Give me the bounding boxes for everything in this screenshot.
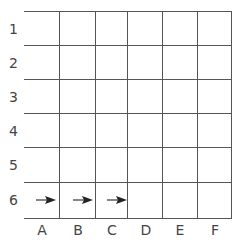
grid-line-h bbox=[24, 182, 232, 183]
row-label: 4 bbox=[9, 123, 23, 139]
grid-line-h bbox=[24, 218, 232, 219]
grid-line-v bbox=[162, 11, 163, 219]
column-label: E bbox=[170, 222, 190, 238]
column-label: B bbox=[68, 222, 88, 238]
grid-line-v bbox=[127, 11, 128, 219]
row-label: 3 bbox=[9, 89, 23, 105]
right-arrow-icon bbox=[72, 195, 94, 205]
grid-line-h bbox=[24, 147, 232, 148]
grid-line-v bbox=[59, 11, 60, 219]
grid-line-h bbox=[24, 11, 232, 12]
column-label: D bbox=[136, 222, 156, 238]
right-arrow-icon bbox=[35, 195, 57, 205]
right-arrow-icon bbox=[106, 195, 128, 205]
grid-line-h bbox=[24, 45, 232, 46]
row-label: 6 bbox=[9, 192, 23, 208]
grid-line-v bbox=[197, 11, 198, 219]
column-label: F bbox=[205, 222, 225, 238]
row-label: 2 bbox=[9, 55, 23, 71]
column-label: A bbox=[32, 222, 52, 238]
grid-line-h bbox=[24, 79, 232, 80]
column-label: C bbox=[102, 222, 122, 238]
row-label: 5 bbox=[9, 157, 23, 173]
grid-line-h bbox=[24, 113, 232, 114]
grid-line-v bbox=[95, 11, 96, 219]
row-label: 1 bbox=[9, 21, 23, 37]
grid-line-v bbox=[231, 11, 232, 219]
